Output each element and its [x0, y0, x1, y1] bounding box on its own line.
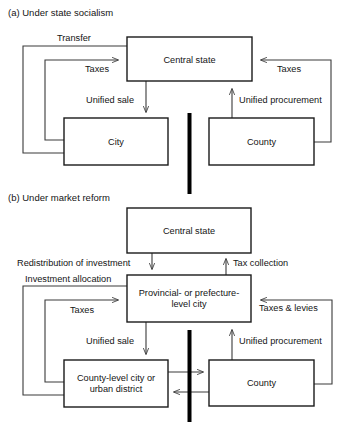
label-a-taxes-county: Taxes: [277, 64, 301, 74]
label-b-investment-allocation: Investment allocation: [25, 274, 111, 284]
panel-b-title: (b) Under market reform: [8, 192, 110, 203]
flow-diagram: (a) Under state socialism Central state …: [0, 0, 354, 429]
box-a-central-state-label: Central state: [163, 55, 215, 65]
label-b-taxes: Taxes: [70, 305, 94, 315]
box-b-county-level-city-label-line2: urban district: [90, 384, 143, 394]
label-a-taxes-city: Taxes: [85, 64, 109, 74]
label-b-unified-sale: Unified sale: [86, 336, 134, 346]
box-b-central-state-label: Central state: [163, 226, 215, 236]
box-b-provincial-city-label-line2: level city: [171, 299, 207, 309]
label-b-redistribution: Redistribution of investment: [17, 258, 131, 268]
label-b-unified-procurement: Unified procurement: [239, 336, 322, 346]
divider-bar-panel-a: [188, 113, 192, 194]
box-a-county-label: County: [247, 137, 277, 147]
box-b-county-level-city-label-line1: County-level city or: [77, 373, 155, 383]
panel-a-title: (a) Under state socialism: [8, 7, 113, 18]
label-b-taxes-levies: Taxes & levies: [259, 303, 318, 313]
label-a-transfer: Transfer: [57, 33, 91, 43]
box-b-provincial-city-label-line1: Provincial- or prefecture-: [139, 288, 240, 298]
label-a-unified-sale: Unified sale: [86, 95, 134, 105]
divider-bar-panel-b: [188, 330, 192, 422]
box-b-county-label: County: [247, 378, 277, 388]
label-a-unified-procurement: Unified procurement: [239, 95, 322, 105]
label-b-tax-collection: Tax collection: [233, 258, 288, 268]
diagram-page: (a) Under state socialism Central state …: [0, 0, 354, 429]
box-a-city-label: City: [108, 137, 124, 147]
